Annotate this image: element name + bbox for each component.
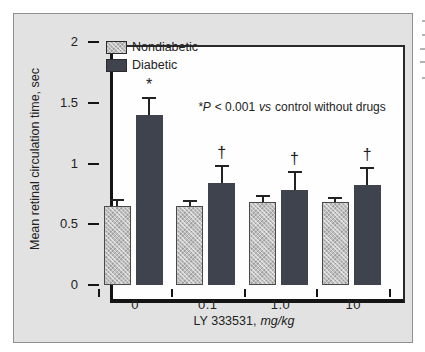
error-bar-cap [256, 195, 270, 197]
annotation-threshold: < 0.001 [215, 100, 255, 114]
annotation-vs: vs [259, 100, 271, 114]
sig-marker-0.1: † [211, 145, 233, 161]
error-bar-cap [328, 197, 342, 199]
y-axis-tick-label: 0 [42, 277, 78, 293]
bar-diabetic-1.0 [281, 190, 308, 285]
x-axis-title: LY 333531,mg/kg [99, 314, 389, 328]
page-canvas: Mean retinal circulation time, sec LY 33… [0, 0, 425, 352]
plot-layer: Mean retinal circulation time, sec LY 33… [0, 0, 425, 352]
error-bar-cap [142, 97, 156, 99]
edge-text-fragment [420, 61, 425, 63]
legend-label-diabetic: Diabetic [132, 58, 177, 72]
error-bar-cap [183, 200, 197, 202]
sig-marker-0: * [138, 77, 160, 93]
error-bar-line [366, 168, 368, 185]
legend-item-nondiabetic: Nondiabetic [106, 38, 198, 56]
legend-swatch-diabetic [106, 59, 127, 72]
annotation-tail: control without drugs [275, 100, 386, 114]
bar-nondiabetic-1.0 [249, 202, 276, 285]
significance-annotation: *P< 0.001vscontrol without drugs [198, 100, 386, 114]
x-axis-tick [389, 289, 391, 297]
error-bar-cap [288, 171, 302, 173]
y-axis-tick-label: 2 [42, 34, 78, 50]
error-bar-line [148, 98, 150, 115]
y-axis-tick [88, 102, 99, 104]
sig-marker-1.0: † [284, 151, 306, 167]
error-bar-line [221, 166, 223, 183]
x-axis-tick-label: 1.0 [251, 297, 311, 313]
y-axis-tick [88, 223, 99, 225]
bar-diabetic-10 [354, 185, 381, 285]
x-axis-title-main: LY 333531, [194, 314, 257, 328]
y-axis-title: Mean retinal circulation time, sec [28, 68, 42, 250]
x-axis-tick-label: 10 [323, 297, 383, 313]
x-axis-title-unit: mg/kg [260, 314, 294, 328]
edge-text-fragment [420, 48, 425, 50]
x-axis-tick [316, 289, 318, 297]
x-axis-tick-label: 0 [105, 297, 165, 313]
bar-nondiabetic-0.1 [176, 206, 203, 285]
y-axis-tick-label: 0.5 [42, 216, 78, 232]
bar-nondiabetic-0 [104, 206, 131, 285]
error-bar-cap [110, 199, 124, 201]
error-bar-cap [360, 167, 374, 169]
y-axis-tick [88, 284, 99, 286]
legend-item-diabetic: Diabetic [106, 56, 198, 74]
annotation-p: *P [198, 100, 211, 114]
y-axis-tick-label: 1.5 [42, 95, 78, 111]
y-axis-tick [88, 163, 99, 165]
y-axis-tick-label: 1 [42, 156, 78, 172]
x-axis-tick [244, 289, 246, 297]
x-axis-tick [171, 289, 173, 297]
bar-diabetic-0 [136, 115, 163, 285]
legend-swatch-nondiabetic [106, 41, 127, 54]
error-bar-line [294, 172, 296, 190]
sig-marker-10: † [356, 147, 378, 163]
legend: Nondiabetic Diabetic [106, 38, 198, 74]
x-axis-tick [98, 289, 100, 297]
y-axis-tick [88, 41, 99, 43]
x-axis-tick-label: 0.1 [178, 297, 238, 313]
error-bar-cap [215, 165, 229, 167]
bar-diabetic-0.1 [208, 183, 235, 285]
legend-label-nondiabetic: Nondiabetic [132, 40, 198, 54]
bar-nondiabetic-10 [322, 202, 349, 285]
